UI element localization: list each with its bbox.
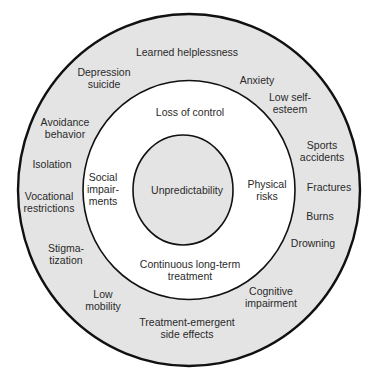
label-fractures: Fractures (307, 181, 351, 193)
label-treatment-side-effects: Treatment-emergent side effects (139, 316, 234, 340)
label-depression-suicide: Depression suicide (77, 66, 130, 90)
label-drowning: Drowning (291, 237, 335, 249)
label-loss-of-control: Loss of control (156, 106, 224, 118)
label-avoidance-behavior: Avoidance behavior (41, 116, 90, 140)
label-sports-accidents: Sports accidents (300, 139, 344, 163)
label-low-mobility: Low mobility (85, 288, 121, 312)
label-learned-helplessness: Learned helplessness (136, 46, 238, 58)
label-stigmatization: Stigma- tization (48, 242, 84, 266)
label-vocational-restrictions: Vocational restrictions (24, 190, 75, 214)
label-anxiety: Anxiety (240, 74, 274, 86)
label-social-impairments: Social impair- ments (87, 171, 119, 207)
label-physical-risks: Physical risks (247, 178, 286, 202)
label-cognitive-impairment: Cognitive impairment (245, 285, 297, 309)
concentric-risk-diagram: Unpredictability Loss of control Social … (0, 0, 368, 379)
label-isolation: Isolation (32, 158, 71, 170)
label-low-self-esteem: Low self- esteem (269, 91, 311, 115)
label-continuous-treatment: Continuous long-term treatment (140, 258, 240, 282)
label-unpredictability: Unpredictability (151, 184, 223, 196)
label-burns: Burns (306, 210, 333, 222)
